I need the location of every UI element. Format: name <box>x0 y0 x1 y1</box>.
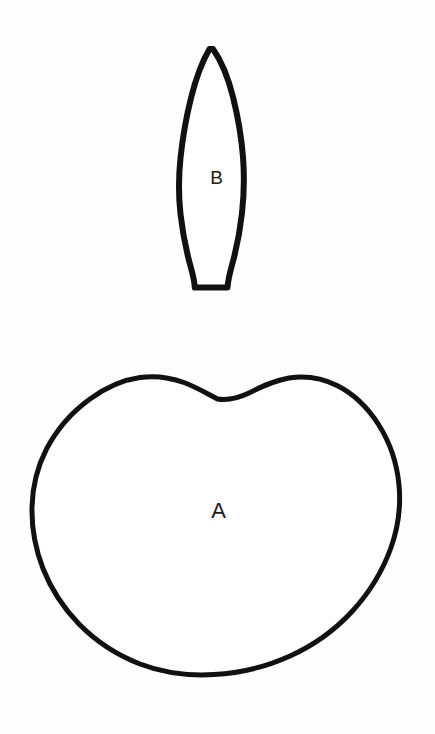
drawing-canvas: B A <box>0 0 435 734</box>
shape-label-b: B <box>0 168 434 187</box>
figure-svg <box>0 0 435 734</box>
shape-label-a: A <box>1 500 435 522</box>
